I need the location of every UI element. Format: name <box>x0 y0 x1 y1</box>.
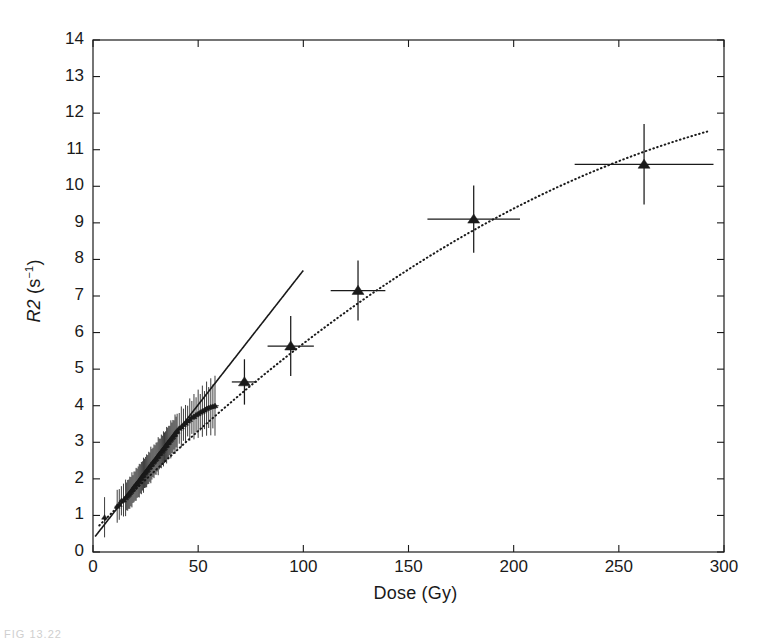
axes-group <box>93 40 724 552</box>
y-tick-label-5: 5 <box>44 358 84 378</box>
y-tick-label-1: 1 <box>44 504 84 524</box>
data-point-marker[interactable] <box>285 341 297 350</box>
y-tick-label-9: 9 <box>44 212 84 232</box>
y-axis-label-units-open: (s <box>24 279 44 294</box>
x-tick-label-6: 300 <box>694 557 754 577</box>
figure-panel: Dose (Gy) R2 (s−1) 050100150200250300012… <box>0 0 767 641</box>
y-tick-label-0: 0 <box>44 541 84 561</box>
y-tick-label-13: 13 <box>44 66 84 86</box>
y-tick-label-2: 2 <box>44 468 84 488</box>
x-tick-label-3: 150 <box>379 557 439 577</box>
axis-box <box>93 40 724 552</box>
data-point-marker[interactable] <box>238 377 250 386</box>
y-tick-label-14: 14 <box>44 29 84 49</box>
x-axis-label-text: Dose (Gy) <box>310 583 458 604</box>
x-tick-label-1: 50 <box>168 557 228 577</box>
error-bars-group <box>105 124 714 537</box>
x-tick-label-4: 200 <box>484 557 544 577</box>
fit-lines-group <box>95 132 707 537</box>
data-points-group <box>102 159 650 519</box>
data-point-small[interactable] <box>102 515 108 520</box>
y-tick-label-12: 12 <box>44 102 84 122</box>
y-tick-label-7: 7 <box>44 285 84 305</box>
x-tick-label-5: 250 <box>589 557 649 577</box>
y-tick-label-4: 4 <box>44 395 84 415</box>
y-tick-label-3: 3 <box>44 431 84 451</box>
y-tick-label-8: 8 <box>44 248 84 268</box>
x-axis-label: Dose (Gy) <box>0 583 767 604</box>
y-axis-label-symbol: R2 <box>24 299 44 322</box>
y-tick-label-6: 6 <box>44 322 84 342</box>
x-tick-label-2: 100 <box>273 557 333 577</box>
chart-canvas <box>0 0 767 641</box>
fit-line-dotted <box>99 132 707 526</box>
data-point-marker[interactable] <box>468 214 480 223</box>
y-tick-label-10: 10 <box>44 175 84 195</box>
y-axis-label: R2 (s−1) <box>23 211 45 371</box>
data-point-marker[interactable] <box>352 285 364 294</box>
y-axis-label-units-close: ) <box>24 259 44 265</box>
y-axis-label-exponent: −1 <box>23 266 35 279</box>
y-tick-label-11: 11 <box>44 139 84 159</box>
figure-caption: FIG 13.22 <box>4 628 62 640</box>
data-point-marker[interactable] <box>638 159 650 168</box>
